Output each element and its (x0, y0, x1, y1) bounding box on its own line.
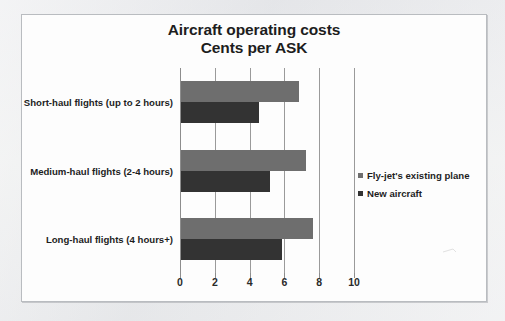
chart-title: Aircraft operating costs Cents per ASK (22, 21, 486, 57)
legend-label: New aircraft (367, 188, 422, 199)
chart-title-line1: Aircraft operating costs (168, 21, 340, 38)
gridline-8 (319, 68, 320, 273)
chart-legend: Fly-jet's existing planeNew aircraft (358, 170, 488, 206)
category-label: Long-haul flights (4 hours+) (46, 233, 173, 244)
legend-item: Fly-jet's existing plane (358, 170, 488, 181)
chart-frame: Aircraft operating costs Cents per ASK S… (21, 14, 487, 302)
x-tick-label: 0 (177, 276, 183, 288)
legend-swatch-icon (358, 173, 363, 178)
x-tick-label: 2 (212, 276, 218, 288)
stray-pencil-mark (443, 248, 457, 253)
bar (181, 218, 313, 239)
bar (181, 171, 270, 192)
category-label: Short-haul flights (up to 2 hours) (24, 97, 173, 108)
x-tick-label: 8 (316, 276, 322, 288)
legend-swatch-icon (358, 191, 363, 196)
x-tick-label: 10 (348, 276, 360, 288)
chart-canvas: Aircraft operating costs Cents per ASK S… (22, 15, 486, 301)
bar (181, 239, 282, 260)
gridline-10 (354, 68, 355, 273)
x-axis-tick-labels: 0246810 (180, 276, 354, 292)
bar (181, 81, 299, 102)
bar (181, 150, 306, 171)
x-tick-label: 4 (247, 276, 253, 288)
legend-label: Fly-jet's existing plane (367, 170, 470, 181)
chart-subtitle: Cents per ASK (22, 39, 486, 57)
category-label: Medium-haul flights (2-4 hours) (30, 165, 173, 176)
plot-area: Short-haul flights (up to 2 hours)Medium… (180, 68, 354, 273)
x-tick-label: 6 (281, 276, 287, 288)
bar (181, 102, 259, 123)
legend-item: New aircraft (358, 188, 488, 199)
